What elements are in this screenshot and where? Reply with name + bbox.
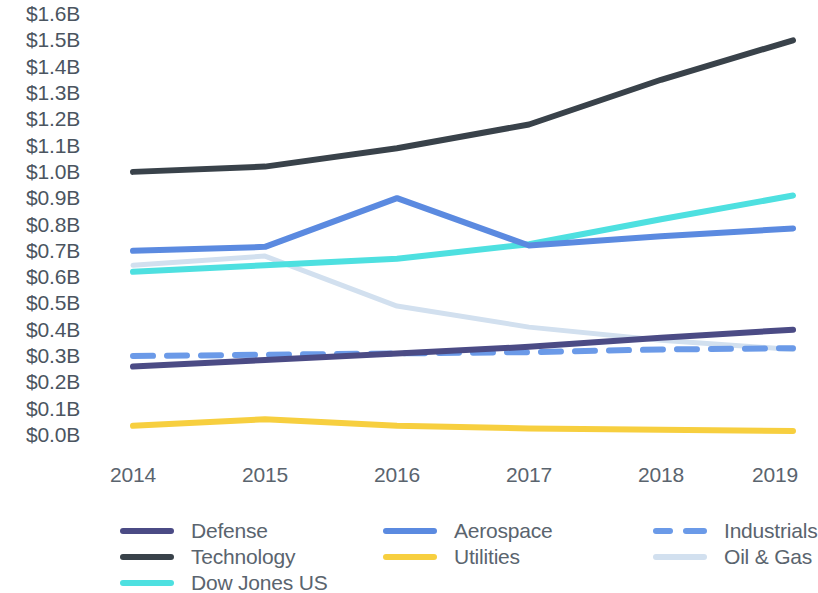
legend-swatch-icon (383, 528, 437, 534)
legend-label: Industrials (724, 518, 818, 543)
legend-item-oil-gas[interactable]: Oil & Gas (653, 544, 818, 569)
y-axis-tick-label: $0.5B (26, 292, 80, 313)
series-line-aerospace (133, 198, 793, 251)
y-axis-tick-label: $0.9B (26, 187, 80, 208)
chart-legend: DefenseTechnologyDow Jones USAerospaceUt… (120, 518, 809, 593)
y-axis-tick-label: $0.7B (26, 240, 80, 261)
legend-item-utilities[interactable]: Utilities (383, 544, 553, 569)
x-axis-tick-label: 2017 (506, 462, 552, 488)
legend-swatch-icon (120, 528, 174, 534)
x-axis: 201420152016201720182019 (88, 462, 809, 500)
legend-column: IndustrialsOil & Gas (653, 518, 818, 570)
series-canvas (88, 0, 809, 445)
y-axis-tick-label: $0.0B (26, 424, 80, 445)
legend-item-aerospace[interactable]: Aerospace (383, 518, 553, 543)
y-axis-tick-label: $0.3B (26, 345, 80, 366)
y-axis-tick-label: $1.6B (26, 3, 80, 24)
legend-item-dow-jones-us[interactable]: Dow Jones US (120, 570, 328, 593)
plot-area (88, 0, 809, 445)
y-axis-tick-label: $0.4B (26, 319, 80, 340)
y-axis-tick-label: $1.5B (26, 29, 80, 50)
legend-item-industrials[interactable]: Industrials (653, 518, 818, 543)
series-line-technology (133, 40, 793, 172)
x-axis-tick-label: 2015 (242, 462, 288, 488)
legend-swatch-icon (120, 554, 174, 560)
y-axis-tick-label: $0.1B (26, 398, 80, 419)
x-axis-tick-label: 2014 (110, 462, 156, 488)
y-axis-tick-label: $1.0B (26, 161, 80, 182)
y-axis-tick-label: $1.2B (26, 108, 80, 129)
legend-label: Aerospace (454, 518, 553, 543)
y-axis-tick-label: $0.6B (26, 266, 80, 287)
legend-column: AerospaceUtilities (383, 518, 553, 570)
legend-column: DefenseTechnologyDow Jones US (120, 518, 328, 593)
y-axis-tick-label: $0.2B (26, 371, 80, 392)
legend-item-defense[interactable]: Defense (120, 518, 328, 543)
y-axis-tick-label: $1.4B (26, 56, 80, 77)
legend-item-technology[interactable]: Technology (120, 544, 328, 569)
y-axis-tick-label: $0.8B (26, 214, 80, 235)
legend-swatch-icon (383, 554, 437, 560)
y-axis: $1.6B$1.5B$1.4B$1.3B$1.2B$1.1B$1.0B$0.9B… (0, 0, 86, 470)
legend-label: Oil & Gas (724, 544, 812, 569)
x-axis-tick-label: 2018 (638, 462, 684, 488)
legend-label: Utilities (454, 544, 520, 569)
legend-swatch-icon (653, 528, 707, 534)
x-axis-tick-label: 2019 (752, 462, 798, 488)
x-axis-tick-label: 2016 (374, 462, 420, 488)
legend-label: Defense (191, 518, 268, 543)
series-line-utilities (133, 419, 793, 431)
y-axis-tick-label: $1.1B (26, 135, 80, 156)
legend-label: Dow Jones US (191, 570, 328, 593)
legend-label: Technology (191, 544, 295, 569)
legend-swatch-icon (653, 554, 707, 560)
y-axis-tick-label: $1.3B (26, 82, 80, 103)
legend-swatch-icon (120, 580, 174, 586)
